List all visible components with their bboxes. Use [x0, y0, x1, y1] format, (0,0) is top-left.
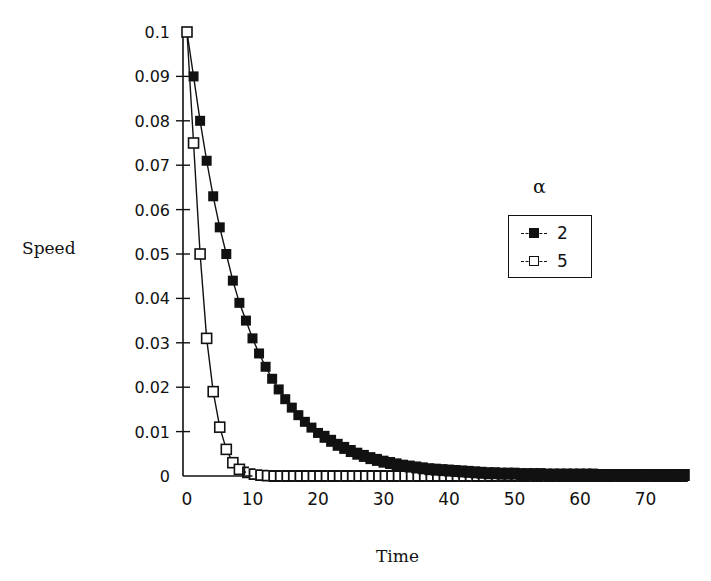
y-tick-label: 0.04	[134, 289, 170, 308]
x-tick-label: 0	[182, 489, 193, 509]
open-square-marker-icon	[521, 254, 547, 268]
legend-label: 2	[557, 223, 568, 243]
y-tick-label: 0.03	[134, 334, 170, 353]
x-tick-label: 20	[307, 489, 329, 509]
y-tick-label: 0.06	[134, 201, 170, 220]
filled-square-marker-icon	[521, 226, 547, 240]
y-tick-label: 0.1	[145, 23, 170, 42]
legend-title: α	[533, 175, 546, 197]
x-tick-label: 70	[635, 489, 657, 509]
x-tick-label: 50	[504, 489, 526, 509]
chart-plot-area: 00.010.020.030.040.050.060.070.080.090.1…	[0, 0, 711, 581]
y-tick-label: 0.08	[134, 112, 170, 131]
x-axis-label: Time	[376, 546, 419, 566]
y-tick-label: 0	[160, 467, 170, 486]
x-tick-label: 60	[569, 489, 591, 509]
x-tick-label: 40	[438, 489, 460, 509]
data-series	[182, 27, 690, 481]
x-tick-label: 30	[373, 489, 395, 509]
y-tick-label: 0.09	[134, 67, 170, 86]
series-alpha-2	[182, 27, 690, 481]
y-tick-label: 0.05	[134, 245, 170, 264]
y-tick-label: 0.07	[134, 156, 170, 175]
axes	[183, 30, 253, 476]
y-axis-label: Speed	[22, 238, 76, 258]
y-tick-label: 0.02	[134, 378, 170, 397]
legend-item-alpha-2: 2	[521, 224, 568, 242]
x-tick-label: 10	[242, 489, 264, 509]
series-alpha-5	[182, 27, 688, 481]
y-tick-label: 0.01	[134, 423, 170, 442]
legend-item-alpha-5: 5	[521, 252, 568, 270]
legend: 2 5	[508, 215, 592, 278]
legend-label: 5	[557, 251, 568, 271]
